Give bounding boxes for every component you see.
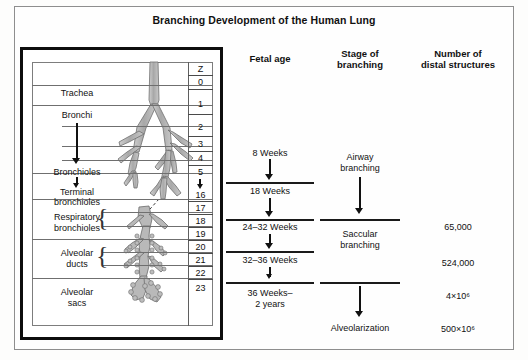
fetal-age-36-weeks-2-years-line1: 36 Weeks– [224,288,316,299]
generation-17: 17 [188,203,213,213]
generation-2: 2 [188,122,213,132]
arrow-bronchi-to-bronchioles-head [72,158,80,164]
generation-gap-arrow-head [197,184,203,189]
age-arrow-2-head [265,211,273,217]
brace-alveolar-ducts: { [96,243,108,269]
stage-alveolarization: Alveolarization [308,323,412,334]
generation-rule [188,253,213,254]
age-arrow-1-head [265,174,273,180]
generation-0: 0 [188,77,213,87]
fetal-age-36-weeks-2-years-line2: 2 years [224,299,316,310]
generation-rule [188,240,213,241]
label-bronchioles: Bronchioles [28,167,126,178]
generation-header: Z [188,64,213,74]
label-respiratory-bronchioles-line1: Respiratory [28,212,126,223]
generation-5: 5 [188,167,213,177]
distal-structures-value-500e6: 500×10⁶ [404,324,512,334]
stage-airway-branching-line1: Airway [318,152,402,163]
age-tick-1 [226,182,314,184]
generation-rule [188,266,213,267]
age-tick-4 [226,282,314,284]
fetal-age-18-weeks: 18 Weeks [228,186,312,197]
fetal-age-32-36-weeks: 32–36 Weeks [224,255,316,266]
label-terminal-bronchioles-line1: Terminal [28,187,126,198]
figure-canvas: Branching Development of the Human Lung [0,0,528,360]
arrow-bronchi-to-bronchioles-shaft [76,123,78,160]
generation-rule [188,214,213,215]
distal-structures-header-line1: Number of [404,48,512,59]
distal-structures-value-524000: 524,000 [404,258,512,268]
stage-tick-1 [320,219,400,221]
stage-airway-branching-line2: branching [318,163,402,174]
generation-1: 1 [188,99,213,109]
stage-saccular-branching-line1: Saccular [318,229,402,240]
age-tick-2 [226,219,314,221]
stage-header-line2: branching [318,59,402,70]
label-respiratory-bronchioles-line2: bronchioles [28,223,126,234]
generation-rule [188,89,213,90]
generation-19: 19 [188,229,213,239]
generation-rule [188,114,213,115]
table-rule [32,278,213,279]
generation-rule [188,201,213,202]
generation-rule [188,75,213,76]
distal-structures-value-65000: 65,000 [404,222,512,232]
distal-structures-header-line2: distal structures [404,59,512,70]
generation-rule [188,151,213,152]
generation-4: 4 [188,153,213,163]
generation-20: 20 [188,242,213,252]
label-alveolar-ducts-line1: Alveolar [28,248,126,259]
age-arrow-4-head [266,274,272,279]
generation-21: 21 [188,255,213,265]
age-arrow-3-head [265,243,273,249]
stage-arrow-2-shaft [359,286,361,314]
generation-rule [188,136,213,137]
label-terminal-bronchioles-line2: bronchioles [28,197,126,208]
generation-23: 23 [188,283,213,293]
table-rule [32,85,213,86]
generation-rule [188,279,213,280]
label-alveolar-sacs-line1: Alveolar [28,287,126,298]
generation-rule [188,227,213,228]
age-tick-3 [226,251,314,253]
generation-3: 3 [188,139,213,149]
label-trachea: Trachea [32,88,122,99]
stage-arrow-1-shaft [359,177,361,211]
stage-header-line1: Stage of [318,48,402,59]
fetal-age-24-32-weeks: 24–32 Weeks [224,222,316,233]
stage-arrow-2-head [355,311,363,317]
label-bronchi: Bronchi [32,110,122,121]
generation-rule [188,165,213,166]
table-rule [32,239,213,240]
table-rule [32,105,213,106]
generation-22: 22 [188,268,213,278]
label-alveolar-sacs-line2: sacs [28,298,126,309]
brace-respiratory-bronchioles: { [96,205,108,231]
generation-16: 16 [188,190,213,200]
fetal-age-header: Fetal age [228,53,312,64]
stage-arrow-1-head [355,208,363,214]
stage-tick-2 [320,282,400,284]
label-alveolar-ducts-line2: ducts [28,259,126,270]
generation-18: 18 [188,216,213,226]
distal-structures-value-4e6: 4×10⁶ [404,291,512,301]
fetal-age-8-weeks: 8 Weeks [228,148,312,159]
stage-saccular-branching-line2: branching [318,240,402,251]
